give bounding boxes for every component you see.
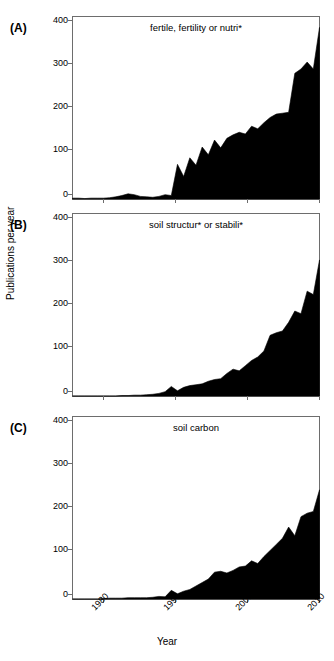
y-axis-label: Publications per year [6,207,16,300]
ytick-label: 400 [42,213,68,222]
xtick-mark [175,396,176,400]
area-path [73,490,320,599]
area-path [73,260,320,396]
ytick-label: 0 [42,190,68,199]
xtick-mark [319,199,320,203]
ytick-label: 200 [42,102,68,111]
ytick-label: 400 [42,16,68,25]
panel-a-letter: (A) [10,22,27,34]
panel-b-area-series [72,213,320,397]
ytick-label: 300 [42,459,68,468]
xtick-mark [247,199,248,203]
ytick-label: 100 [42,145,68,154]
panel-b-ytick-labels: 400 300 200 100 0 [40,213,68,397]
panel-c-plot: soil carbon [72,416,320,600]
x-axis-label: Year [0,637,334,647]
area-path [73,27,320,199]
panel-c: (C) 400 300 200 100 0 soil carbon 1980 1… [0,416,334,600]
ytick-label: 0 [42,387,68,396]
xtick-mark [319,396,320,400]
ytick-label: 100 [42,545,68,554]
publications-per-year-figure: (A) 400 300 200 100 0 fertile, fertility… [0,0,334,661]
panel-a-ytick-labels: 400 300 200 100 0 [40,16,68,200]
xtick-mark [247,396,248,400]
ytick-label: 400 [42,416,68,425]
xtick-mark [103,396,104,400]
xtick-mark [175,199,176,203]
panel-c-letter: (C) [10,422,27,434]
panel-a-plot: fertile, fertility or nutri* [72,16,320,200]
panel-c-area-series [72,416,320,600]
ytick-label: 300 [42,256,68,265]
ytick-label: 200 [42,299,68,308]
xtick-mark [103,199,104,203]
panel-c-ytick-labels: 400 300 200 100 0 [40,416,68,600]
ytick-label: 0 [42,590,68,599]
ytick-label: 200 [42,502,68,511]
panel-a-area-series [72,16,320,200]
ytick-label: 300 [42,59,68,68]
panel-a: (A) 400 300 200 100 0 fertile, fertility… [0,16,334,200]
ytick-label: 100 [42,342,68,351]
panel-b-plot: soil structur* or stabili* [72,213,320,397]
panel-b: (B) 400 300 200 100 0 soil structur* or … [0,213,334,397]
